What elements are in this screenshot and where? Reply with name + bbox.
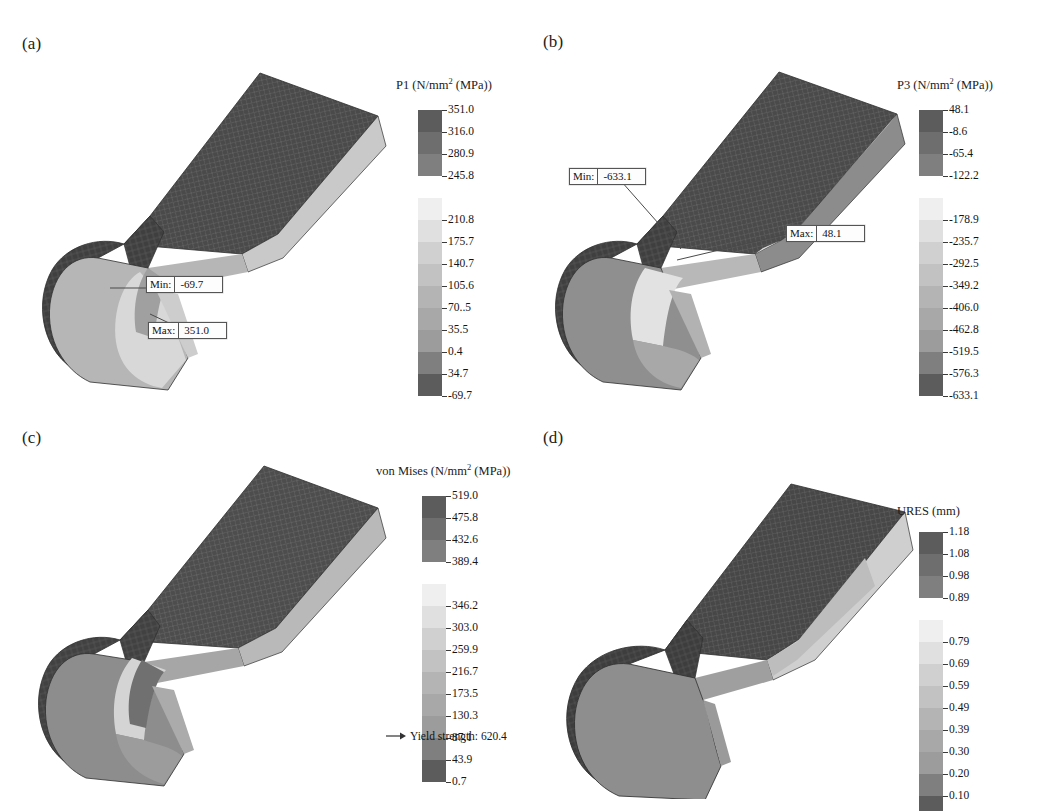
panel-a-model — [28, 58, 390, 403]
colorbar-tick-mark — [442, 286, 447, 287]
panel-d-label: (d) — [543, 428, 563, 448]
panel-d-colorbar — [919, 532, 943, 811]
legend-title-main: URES (mm) — [897, 504, 960, 518]
callout-value: -69.7 — [175, 277, 222, 292]
colorbar-tick-label: -292.5 — [949, 258, 979, 270]
colorbar-tick-label: 173.5 — [452, 688, 478, 700]
callout-value: -633.1 — [598, 169, 645, 184]
colorbar-tick-label: -462.8 — [949, 324, 979, 336]
colorbar-tick-mark — [943, 774, 948, 775]
colorbar-tick-mark — [943, 330, 948, 331]
colorbar-segment — [919, 330, 943, 352]
colorbar-segment — [919, 308, 943, 330]
colorbar-tick-mark — [446, 496, 451, 497]
colorbar-segment — [422, 540, 446, 562]
colorbar-segment — [919, 242, 943, 264]
colorbar-segment — [422, 760, 446, 782]
panel-a-min-callout: Min: -69.7 — [146, 276, 223, 293]
colorbar-tick-label: 48.1 — [949, 104, 969, 116]
colorbar-tick-mark — [446, 694, 451, 695]
colorbar-tick-mark — [943, 176, 948, 177]
panel-a-colorbar — [418, 110, 442, 396]
colorbar-segment — [422, 650, 446, 672]
panel-c-model — [20, 448, 392, 793]
colorbar-tick-mark — [943, 532, 948, 533]
colorbar-segment — [919, 752, 943, 774]
colorbar-tick-mark — [943, 752, 948, 753]
colorbar-segment — [422, 496, 446, 518]
colorbar-tick-label: 34.7 — [448, 368, 468, 380]
colorbar-segment — [919, 554, 943, 576]
colorbar-tick-label: -8.6 — [949, 126, 967, 138]
panel-b: (b) — [521, 0, 1041, 405]
legend-title-tail: (MPa)) — [471, 464, 510, 478]
colorbar-segment — [919, 774, 943, 796]
colorbar-segment — [418, 198, 442, 220]
yield-note-text: Yield strength: 620.4 — [410, 730, 507, 742]
colorbar-tick-label: -633.1 — [949, 390, 979, 402]
colorbar-tick-mark — [943, 796, 948, 797]
legend-title-tail: (MPa)) — [954, 78, 993, 92]
colorbar-segment — [919, 576, 943, 598]
colorbar-tick-mark — [943, 264, 948, 265]
colorbar-tick-label: 210.8 — [448, 214, 474, 226]
colorbar-segment — [418, 352, 442, 374]
colorbar-segment — [422, 584, 446, 606]
colorbar-segment — [919, 664, 943, 686]
colorbar-tick-label: 1.18 — [949, 526, 969, 538]
colorbar-tick-label: -406.0 — [949, 302, 979, 314]
colorbar-tick-label: 259.9 — [452, 644, 478, 656]
colorbar-tick-label: 130.3 — [452, 710, 478, 722]
colorbar-segment — [919, 374, 943, 396]
colorbar-segment — [919, 642, 943, 664]
colorbar-segment — [422, 518, 446, 540]
colorbar-segment — [422, 606, 446, 628]
panel-b-colorbar — [919, 110, 943, 396]
colorbar-segment — [919, 352, 943, 374]
callout-key: Max: — [787, 226, 817, 241]
panel-b-min-callout: Min: -633.1 — [569, 168, 646, 185]
colorbar-tick-label: 0.79 — [949, 636, 969, 648]
colorbar-tick-mark — [943, 154, 948, 155]
colorbar-tick-mark — [446, 716, 451, 717]
colorbar-tick-label: 0.7 — [452, 776, 466, 788]
colorbar-tick-label: 35.5 — [448, 324, 468, 336]
colorbar-tick-label: -235.7 — [949, 236, 979, 248]
colorbar-tick-label: 1.08 — [949, 548, 969, 560]
colorbar-tick-mark — [943, 396, 948, 397]
colorbar-tick-mark — [442, 330, 447, 331]
colorbar-gap — [919, 598, 943, 620]
panel-a-max-callout: Max: 351.0 — [148, 322, 227, 339]
colorbar-segment — [919, 198, 943, 220]
panel-b-legend-title: P3 (N/mm2 (MPa)) — [897, 76, 993, 93]
colorbar-tick-mark — [943, 708, 948, 709]
colorbar-segment — [418, 374, 442, 396]
colorbar-tick-mark — [446, 650, 451, 651]
colorbar-tick-mark — [943, 730, 948, 731]
colorbar-tick-label: 0.20 — [949, 768, 969, 780]
colorbar-tick-mark — [943, 642, 948, 643]
colorbar-segment — [919, 686, 943, 708]
colorbar-gap — [418, 176, 442, 198]
colorbar-tick-mark — [943, 554, 948, 555]
colorbar-tick-label: 0.30 — [949, 746, 969, 758]
colorbar-tick-label: -576.3 — [949, 368, 979, 380]
colorbar-gap — [919, 176, 943, 198]
colorbar-tick-mark — [943, 308, 948, 309]
colorbar-tick-label: 519.0 — [452, 490, 478, 502]
colorbar-gap — [422, 562, 446, 584]
colorbar-tick-mark — [442, 374, 447, 375]
legend-title-main: von Mises (N/mm — [376, 464, 467, 478]
colorbar-tick-mark — [943, 242, 948, 243]
colorbar-segment — [418, 330, 442, 352]
colorbar-segment — [919, 220, 943, 242]
colorbar-tick-mark — [943, 576, 948, 577]
legend-title-tail: (MPa)) — [453, 78, 492, 92]
colorbar-tick-label: 0.10 — [949, 790, 969, 802]
colorbar-segment — [418, 154, 442, 176]
colorbar-tick-mark — [943, 286, 948, 287]
colorbar-tick-mark — [446, 606, 451, 607]
colorbar-segment — [418, 110, 442, 132]
colorbar-segment — [418, 308, 442, 330]
colorbar-tick-label: 105.6 — [448, 280, 474, 292]
